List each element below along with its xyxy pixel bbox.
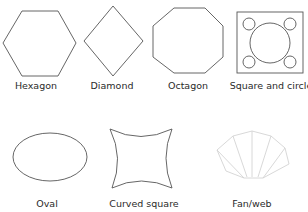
curved-square-label: Curved square	[109, 199, 178, 209]
diamond-label: Diamond	[91, 81, 134, 91]
center-circle	[250, 23, 290, 63]
oval-label: Oval	[36, 199, 58, 209]
fan-web-label: Fan/web	[232, 199, 271, 209]
corner-circle-top-left	[243, 18, 255, 30]
shapes-diagram	[0, 0, 308, 212]
diamond-shape	[84, 6, 143, 76]
fan-web-shape	[217, 131, 289, 178]
hexagon-shape	[3, 11, 76, 76]
corner-circle-top-right	[284, 18, 296, 30]
oval-shape	[13, 133, 87, 181]
curved-square-shape	[110, 129, 172, 188]
square-and-circle-shape	[237, 12, 303, 73]
square-and-circle-label: Square and circle	[230, 81, 308, 91]
corner-circle-bottom-right	[284, 56, 296, 68]
corner-circle-bottom-left	[243, 56, 255, 68]
outer-square	[237, 12, 303, 73]
octagon-shape	[153, 8, 223, 73]
octagon-label: Octagon	[168, 81, 208, 91]
hexagon-label: Hexagon	[15, 81, 57, 91]
